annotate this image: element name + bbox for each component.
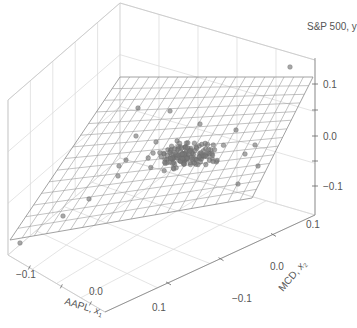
scatter-point bbox=[146, 156, 151, 161]
scatter-point bbox=[200, 142, 205, 147]
scatter-point-outlier bbox=[243, 152, 248, 157]
scatter-point-outlier bbox=[61, 214, 66, 219]
scatter-point-outlier bbox=[253, 143, 258, 148]
z-tick-label-mid: 0.0 bbox=[323, 131, 337, 142]
scatter-point bbox=[211, 159, 216, 164]
scatter-point bbox=[190, 157, 195, 162]
plane-meshline bbox=[34, 172, 266, 205]
plane-meshline bbox=[10, 198, 252, 240]
plane-meshline bbox=[18, 189, 257, 228]
regression-3d-chart: 0.1 0.0 −0.1 S&P 500, y −0.1 0.0 0.1 AAP… bbox=[0, 0, 357, 328]
scatter-point bbox=[210, 152, 215, 157]
scatter-point bbox=[205, 142, 210, 147]
box-edge bbox=[120, 3, 315, 60]
plane-meshline bbox=[89, 112, 296, 124]
right-pane-gridline bbox=[120, 55, 315, 112]
scatter-point bbox=[204, 162, 209, 167]
z-axis-label: S&P 500, y bbox=[307, 21, 357, 32]
scatter-point bbox=[168, 150, 173, 155]
scatter-points bbox=[18, 65, 293, 246]
x-tick-label-neg: −0.1 bbox=[16, 269, 36, 280]
scatter-point-outlier bbox=[256, 164, 261, 169]
scatter-point bbox=[170, 161, 175, 166]
plane-meshline bbox=[26, 181, 261, 217]
plane-meshline bbox=[104, 94, 304, 100]
scatter-point-outlier bbox=[234, 128, 239, 133]
z-tick-label-top: 0.1 bbox=[323, 79, 337, 90]
x-tick-label-pos: 0.1 bbox=[152, 302, 166, 313]
scatter-point bbox=[203, 154, 208, 159]
scatter-point bbox=[182, 162, 187, 167]
x-axis-label-sub: 1 bbox=[98, 312, 104, 319]
scatter-point-outlier bbox=[87, 197, 92, 202]
scatter-point bbox=[151, 151, 156, 156]
scatter-point-outlier bbox=[136, 106, 141, 111]
scatter-point bbox=[199, 151, 204, 156]
scatter-point-outlier bbox=[288, 65, 293, 70]
plane-meshline bbox=[112, 86, 309, 89]
scatter-point-outlier bbox=[236, 182, 241, 187]
scatter-point bbox=[180, 152, 185, 157]
scatter-point-outlier bbox=[18, 241, 23, 246]
scatter-point bbox=[168, 157, 173, 162]
y-tick-label-neg: −0.1 bbox=[232, 293, 252, 304]
scatter-point bbox=[149, 165, 154, 170]
scatter-point bbox=[193, 148, 198, 153]
scatter-point bbox=[187, 149, 192, 154]
scatter-point bbox=[173, 151, 178, 156]
scatter-point bbox=[198, 160, 203, 165]
scatter-point bbox=[169, 144, 174, 149]
x-axis-label-name: AAPL, bbox=[63, 295, 96, 315]
floor-gridline bbox=[36, 231, 158, 288]
left-pane-gridline bbox=[8, 55, 120, 152]
scatter-point-outlier bbox=[168, 109, 173, 114]
scatter-point-outlier bbox=[116, 174, 121, 179]
scatter-point-outlier bbox=[124, 158, 129, 163]
scatter-point-outlier bbox=[198, 122, 203, 127]
box-edge bbox=[8, 3, 120, 100]
z-tick-label-bottom: −0.1 bbox=[323, 181, 343, 192]
scatter-point bbox=[206, 147, 211, 152]
x-axis-label: AAPL, x1 bbox=[63, 295, 105, 318]
x-tick-label-zero: 0.0 bbox=[89, 286, 103, 297]
y-tick-label-pos: 0.1 bbox=[306, 219, 320, 230]
scatter-point-outlier bbox=[134, 134, 139, 139]
scatter-point bbox=[162, 160, 167, 165]
scatter-point bbox=[221, 143, 226, 148]
scatter-point bbox=[186, 141, 191, 146]
scatter-point bbox=[158, 150, 163, 155]
scatter-point-outlier bbox=[154, 140, 159, 145]
scatter-point bbox=[211, 143, 216, 148]
scatter-point-outlier bbox=[117, 164, 122, 169]
y-tick-label-zero: 0.0 bbox=[270, 261, 284, 272]
scatter-point bbox=[180, 156, 185, 161]
scatter-point bbox=[162, 169, 167, 174]
scatter-point bbox=[177, 141, 182, 146]
scatter-point bbox=[179, 146, 184, 151]
